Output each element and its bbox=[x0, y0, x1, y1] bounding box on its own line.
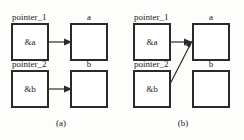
pointer-1-cell: &a bbox=[133, 23, 171, 61]
pointer-2-value: &b bbox=[24, 84, 36, 94]
pointer-1-cell: &a bbox=[11, 23, 49, 61]
box-b-cell bbox=[192, 70, 230, 108]
box-a-cell bbox=[192, 23, 230, 61]
box-a-label: a bbox=[70, 12, 108, 22]
pointer-2-label: pointer_2 bbox=[12, 59, 47, 69]
pointer-2-cell: &b bbox=[133, 70, 171, 108]
pointer-1-value: &a bbox=[147, 37, 158, 47]
pointer-2-label: pointer_2 bbox=[134, 59, 169, 69]
panel-b: pointer_1 &a a pointer_2 &b b (b) bbox=[122, 0, 244, 140]
box-a-cell bbox=[70, 23, 108, 61]
box-b-cell bbox=[70, 70, 108, 108]
panel-a: pointer_1 &a a pointer_2 &b b (a) bbox=[0, 0, 122, 140]
box-a-label: a bbox=[192, 12, 230, 22]
pointer-2-value: &b bbox=[146, 84, 158, 94]
arrow-line-pointer2-to-a bbox=[168, 45, 190, 88]
arrowhead-pointer1-to-a bbox=[184, 39, 192, 46]
box-b-label: b bbox=[70, 59, 108, 69]
panel-b-caption: (b) bbox=[122, 118, 244, 128]
panel-a-caption: (a) bbox=[0, 118, 122, 128]
box-b-label: b bbox=[192, 59, 230, 69]
pointer-1-label: pointer_1 bbox=[134, 12, 169, 22]
pointer-2-cell: &b bbox=[11, 70, 49, 108]
pointer-1-label: pointer_1 bbox=[12, 12, 47, 22]
pointer-assignment-figure: pointer_1 &a a pointer_2 &b b (a) pointe… bbox=[0, 0, 244, 140]
pointer-1-value: &a bbox=[25, 37, 36, 47]
